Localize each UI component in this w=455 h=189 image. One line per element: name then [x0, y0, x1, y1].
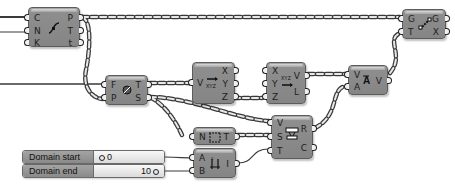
svg-text:XYZ: XYZ	[281, 75, 291, 81]
slider-value: 0	[107, 152, 112, 162]
grip-in[interactable]	[101, 94, 106, 101]
port-in-N[interactable]: N	[34, 26, 41, 36]
slider-domain-start[interactable]: Domain start 0	[22, 150, 165, 164]
port-in-F[interactable]: F	[111, 80, 116, 90]
port-in-X[interactable]: X	[272, 66, 278, 76]
port-in-Y[interactable]: Y	[272, 79, 278, 89]
port-out-Z[interactable]: Z	[222, 92, 228, 102]
slider-label: Domain start	[23, 151, 94, 163]
slider-value-display[interactable]: 0	[97, 151, 112, 163]
slider-knob-icon[interactable]	[99, 155, 105, 161]
deconstruct-vector-icon: XYZ	[206, 75, 220, 89]
port-in-A[interactable]: A	[199, 153, 205, 163]
slider-label: Domain end	[23, 165, 94, 177]
construct-vector-icon: XYZ	[281, 75, 295, 89]
grip-in[interactable]	[24, 14, 29, 21]
domain-icon: 0	[209, 155, 221, 171]
svg-text:0: 0	[211, 156, 214, 161]
grip-in[interactable]	[262, 93, 267, 100]
port-in-T[interactable]: T	[408, 27, 414, 37]
node-remap[interactable]: V S T R C	[271, 115, 313, 159]
move-icon	[418, 17, 432, 31]
grip-in[interactable]	[267, 133, 272, 140]
port-out-I[interactable]: I	[226, 159, 229, 169]
port-out-T[interactable]: T	[136, 80, 142, 90]
node-series[interactable]: N T	[193, 127, 236, 145]
port-in-C[interactable]: C	[34, 13, 40, 23]
wire-domain-to-remap	[238, 149, 269, 163]
port-out-P[interactable]: P	[68, 13, 73, 23]
port-in-V[interactable]: V	[197, 78, 203, 88]
node-deconstruct-vector[interactable]: V X Y Z XYZ	[192, 62, 235, 104]
slider-value: 10	[141, 166, 151, 176]
slider-domain-end[interactable]: Domain end 10	[22, 164, 165, 178]
svg-text:XYZ: XYZ	[206, 83, 216, 89]
grip-in[interactable]	[189, 154, 194, 161]
port-in-V[interactable]: V	[354, 70, 360, 80]
slider-track[interactable]: 0	[94, 151, 164, 163]
grip-in[interactable]	[262, 67, 267, 74]
grip-in[interactable]	[101, 81, 106, 88]
grip-in[interactable]	[189, 167, 194, 174]
port-out-X[interactable]: X	[222, 66, 228, 76]
slider-track[interactable]: 10	[94, 165, 164, 177]
port-in-A[interactable]: A	[354, 82, 360, 92]
port-in-Z[interactable]: Z	[272, 92, 278, 102]
grip-in[interactable]	[189, 133, 194, 140]
slider-value-display[interactable]: 10	[141, 165, 161, 177]
port-out-R[interactable]: R	[301, 124, 307, 134]
port-out-X[interactable]: X	[433, 27, 439, 37]
port-out-Y[interactable]: Y	[223, 79, 229, 89]
grip-in[interactable]	[398, 28, 403, 35]
port-in-S[interactable]: S	[277, 132, 283, 142]
port-out-S[interactable]: S	[135, 93, 141, 103]
port-in-P[interactable]: P	[111, 93, 116, 103]
node-construct-vector[interactable]: X Y Z V L XYZ	[266, 62, 306, 104]
grip-in[interactable]	[24, 27, 29, 34]
grip-in[interactable]	[188, 79, 193, 86]
port-in-N[interactable]: N	[199, 132, 206, 142]
node-evaluate-frame[interactable]: F P T S	[105, 75, 148, 105]
divide-curve-icon	[47, 21, 61, 35]
port-out-T[interactable]: T	[224, 132, 230, 142]
port-out-t[interactable]: t	[68, 38, 72, 48]
amplitude-icon: A	[363, 73, 375, 87]
node-construct-domain[interactable]: A B I 0	[193, 148, 236, 178]
grip-in[interactable]	[24, 39, 29, 46]
grip-in[interactable]	[267, 119, 272, 126]
port-out-C[interactable]: C	[301, 143, 307, 153]
node-amplitude[interactable]: V A V A	[348, 65, 388, 95]
grip-in[interactable]	[267, 147, 272, 154]
grip-in[interactable]	[398, 15, 403, 22]
svg-text:A: A	[363, 75, 370, 86]
node-move[interactable]: G T G X	[402, 9, 446, 39]
grip-in[interactable]	[262, 80, 267, 87]
grip-in[interactable]	[344, 71, 349, 78]
port-in-K[interactable]: K	[34, 38, 40, 48]
remap-icon	[285, 126, 299, 142]
port-out-V[interactable]: V	[376, 76, 382, 86]
port-in-G[interactable]: G	[408, 14, 415, 24]
port-in-V[interactable]: V	[277, 118, 283, 128]
series-icon	[208, 130, 222, 143]
port-out-T[interactable]: T	[68, 26, 74, 36]
node-curve-param[interactable]: C N K P T t	[28, 7, 80, 47]
port-in-B[interactable]: B	[199, 166, 205, 176]
port-out-G[interactable]: G	[432, 14, 439, 24]
slider-knob-icon[interactable]	[153, 169, 159, 175]
port-in-T[interactable]: T	[277, 146, 283, 156]
plane-evaluate-icon	[121, 84, 133, 96]
grip-in[interactable]	[344, 83, 349, 90]
